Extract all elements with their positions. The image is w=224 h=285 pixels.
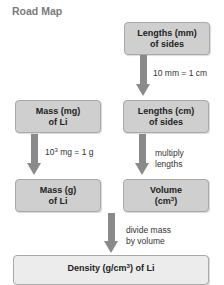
label-mg-to-g-rest: mg = 1 g bbox=[58, 147, 94, 157]
box-lengths-mm: Lengths (mm) of sides bbox=[124, 22, 210, 55]
label-mg-to-g-exp: 3 bbox=[54, 147, 57, 153]
box-lengths-cm-line1: Lengths (cm) bbox=[138, 106, 195, 117]
label-to-density-line2: by volume bbox=[126, 236, 171, 247]
diagram-title: Road Map bbox=[12, 5, 62, 17]
box-volume-line2: (cm3) bbox=[150, 196, 182, 207]
label-mg-to-g: 103 mg = 1 g bbox=[45, 147, 94, 158]
box-mass-mg-line2: of Li bbox=[36, 117, 81, 128]
box-lengths-mm-line2: of sides bbox=[137, 39, 197, 50]
box-mass-mg-line1: Mass (mg) bbox=[36, 106, 81, 117]
box-volume: Volume (cm3) bbox=[123, 179, 209, 212]
label-to-density-line1: divide mass bbox=[126, 225, 171, 236]
box-mass-g: Mass (g) of Li bbox=[15, 179, 101, 212]
label-to-density: divide mass by volume bbox=[126, 225, 171, 247]
label-cm-to-volume-line1: multiply bbox=[155, 148, 184, 159]
box-mass-mg: Mass (mg) of Li bbox=[15, 100, 101, 133]
box-density: Density (g/cm3) of Li bbox=[13, 255, 209, 285]
box-lengths-mm-line1: Lengths (mm) bbox=[137, 28, 197, 39]
box-mass-g-line1: Mass (g) bbox=[40, 185, 77, 196]
box-density-label: Density (g/cm3) of Li bbox=[68, 263, 155, 274]
box-lengths-cm-line2: of sides bbox=[138, 117, 195, 128]
box-mass-g-line2: of Li bbox=[40, 196, 77, 207]
label-mm-to-cm: 10 mm = 1 cm bbox=[153, 68, 207, 79]
label-cm-to-volume-line2: lengths bbox=[155, 159, 184, 170]
label-cm-to-volume: multiply lengths bbox=[155, 148, 184, 170]
box-lengths-cm: Lengths (cm) of sides bbox=[123, 100, 209, 133]
box-volume-line1: Volume bbox=[150, 185, 182, 196]
